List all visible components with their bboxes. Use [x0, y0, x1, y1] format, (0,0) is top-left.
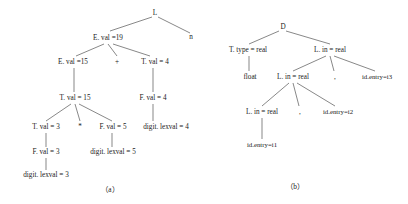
node-a-digit-lexval-3: digit. lexval = 3 [23, 171, 69, 179]
tree-b-edges [249, 31, 375, 139]
node-a-f-val-4: F. val = 4 [139, 94, 166, 102]
edge-Tval15-to-Fval5 [79, 104, 112, 121]
edge-Tval15-to-star [75, 104, 80, 121]
node-a-digit-lexval-5: digit. lexval = 5 [90, 148, 136, 156]
node-b-comma-1: , [334, 73, 336, 81]
edge-Eval19-to-Eval15 [76, 44, 104, 56]
tree-b-nodes: D T. type = real L. in = real float L. i… [229, 23, 393, 148]
node-a-root-L: L [153, 9, 157, 17]
node-a-t-val-4: T. val = 4 [141, 58, 169, 66]
caption-a: （a） [101, 185, 118, 194]
edge-Lin2-to-identry-i2 [297, 83, 335, 106]
node-b-id-entry-i3: id.entry=i3 [362, 73, 393, 80]
edge-Eval19-to-plus [108, 44, 117, 56]
edge-Lin1-to-identry-i3 [334, 56, 375, 71]
edge-L-to-Eval19 [110, 17, 152, 31]
node-a-n-terminal: n [189, 33, 193, 41]
node-b-id-entry-i1: id.entry=i1 [247, 141, 277, 148]
edge-D-to-Ttype [249, 31, 279, 44]
edge-D-to-Lin1 [286, 31, 330, 44]
node-b-comma-2: , [299, 108, 301, 116]
parse-tree-figure: L n E. val =19 E. val =15 + T. val = 4 T… [0, 0, 408, 204]
node-b-l-in-real-2: L. in = real [277, 73, 309, 81]
node-a-f-val-5: F. val = 5 [99, 123, 126, 131]
edge-Lin2-to-Lin3 [262, 83, 289, 106]
node-a-digit-lexval-4: digit. lexval = 4 [143, 123, 189, 131]
node-a-star-operator: * [78, 123, 82, 131]
tree-a-nodes: L n E. val =19 E. val =15 + T. val = 4 T… [23, 9, 193, 179]
node-b-t-type-real: T. type = real [229, 46, 267, 54]
tree-canvas: L n E. val =19 E. val =15 + T. val = 4 T… [0, 0, 408, 204]
node-b-float-terminal: float [243, 73, 256, 81]
caption-b: （b） [286, 182, 304, 191]
node-a-e-val-19: E. val =19 [93, 34, 123, 42]
node-a-plus-operator: + [115, 58, 119, 66]
edge-Eval19-to-Tval4 [113, 44, 150, 56]
node-b-l-in-real-3: L. in = real [246, 108, 278, 116]
edge-Lin1-to-comma1 [330, 56, 334, 71]
edge-Tval15-to-Tval3 [46, 104, 71, 121]
node-b-root-D: D [280, 23, 285, 31]
node-b-l-in-real-1: L. in = real [314, 46, 346, 54]
node-a-f-val-3: F. val = 3 [32, 148, 59, 156]
edge-L-to-n [158, 17, 190, 33]
node-a-e-val-15: E. val =15 [58, 58, 88, 66]
node-a-t-val-15: T. val = 15 [59, 94, 90, 102]
figure-captions: （a） （b） [101, 182, 303, 194]
node-b-id-entry-i2: id.entry=i2 [323, 108, 354, 115]
edge-Lin1-to-Lin2 [293, 56, 326, 71]
edge-Lin2-to-comma2 [293, 83, 299, 106]
node-a-t-val-3: T. val = 3 [32, 123, 60, 131]
